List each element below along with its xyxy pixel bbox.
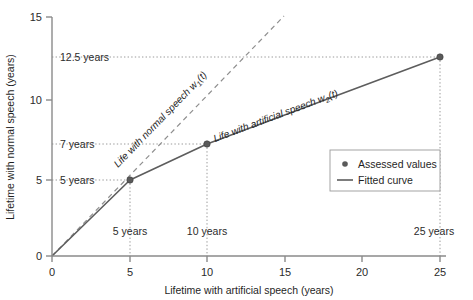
x-tick-label: 25	[434, 266, 446, 278]
curve-label-artificial-speech: Life with artificial speech w2(t)	[212, 87, 340, 146]
data-point	[204, 141, 210, 147]
y-tick-label: 10	[30, 94, 42, 106]
y-value-label: 5 years	[60, 174, 94, 186]
y-tick-label: 0	[36, 250, 42, 262]
legend-marker-dot	[342, 161, 348, 167]
y-value-label: 12.5 years	[60, 51, 109, 63]
svg-text:Life with normal speech w1(t): Life with normal speech w1(t)	[112, 69, 211, 171]
x-tick-label: 5	[127, 266, 133, 278]
data-point	[437, 54, 443, 60]
chart-container: 15 10 5 0 0 5 10 15 20 25 Lifetime with …	[0, 0, 473, 300]
x-tick-label: 20	[356, 266, 368, 278]
curve-label-normal-speech: Life with normal speech w1(t)	[112, 69, 211, 171]
x-tick-label: 0	[49, 266, 55, 278]
y-axis-title: Lifetime with normal speech (years)	[4, 54, 16, 220]
data-point	[127, 177, 133, 183]
legend: Assessed values Fitted curve	[330, 150, 440, 191]
x-value-label: 25 years	[414, 225, 454, 237]
x-tick-label: 15	[279, 266, 291, 278]
curve-label-w1-text: Life with normal speech w	[112, 78, 200, 169]
y-tick-label: 5	[36, 174, 42, 186]
svg-text:Life with artificial speech w2: Life with artificial speech w2(t)	[212, 87, 340, 146]
x-tick-labels: 0 5 10 15 20 25	[49, 266, 446, 278]
legend-item-label: Assessed values	[358, 158, 437, 170]
x-value-label: 5 years	[113, 225, 147, 237]
y-value-label: 7 years	[60, 138, 94, 150]
legend-item-label: Fitted curve	[358, 174, 413, 186]
y-tick-label: 15	[30, 11, 42, 23]
x-value-annotations: 5 years 10 years 25 years	[113, 225, 454, 237]
x-value-label: 10 years	[187, 225, 227, 237]
x-tick-label: 10	[201, 266, 213, 278]
y-tick-labels: 15 10 5 0	[30, 11, 42, 262]
x-axis-title: Lifetime with artificial speech (years)	[164, 284, 333, 296]
y-value-annotations: 12.5 years 7 years 5 years	[60, 51, 109, 186]
curve-label-w2-text: Life with artificial speech w	[212, 92, 327, 144]
